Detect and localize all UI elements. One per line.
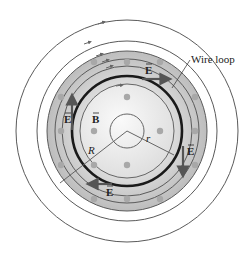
b-dot-icon <box>157 59 163 65</box>
b-dot-icon <box>192 128 198 134</box>
b-dot-icon <box>124 196 130 202</box>
b-dot-icon <box>58 94 64 100</box>
e-label-right-text: E <box>187 145 194 157</box>
b-dot-icon <box>124 59 130 65</box>
e-label-bottom-text: E <box>106 186 113 198</box>
b-dot-icon <box>192 162 198 168</box>
b-dot-icon <box>58 128 64 134</box>
e-label-left-text: E <box>64 113 71 125</box>
e-label-right: E <box>187 145 194 157</box>
e-label-bottom: E <box>106 186 113 198</box>
b-label: B <box>92 113 100 125</box>
b-dot-icon <box>58 162 64 168</box>
b-dot-icon <box>91 59 97 65</box>
e-label-left: E <box>64 113 71 125</box>
b-dot-icon <box>157 196 163 202</box>
b-dot-icon <box>124 162 130 168</box>
b-dot-icon <box>157 128 163 134</box>
e-label-top-text: E <box>145 64 152 76</box>
b-dot-icon <box>91 196 97 202</box>
radius-label-r: r <box>146 132 151 144</box>
b-label-text: B <box>92 113 100 125</box>
wire-loop-label: Wire loop <box>191 53 235 65</box>
b-dot-icon <box>91 162 97 168</box>
radius-label-R: R <box>87 144 95 156</box>
b-dot-icon <box>91 128 97 134</box>
e-label-top: E <box>145 64 152 76</box>
b-dot-icon <box>192 94 198 100</box>
b-dot-icon <box>124 94 130 100</box>
induced-field-diagram: E E E E B R r Wire loop <box>0 0 252 254</box>
